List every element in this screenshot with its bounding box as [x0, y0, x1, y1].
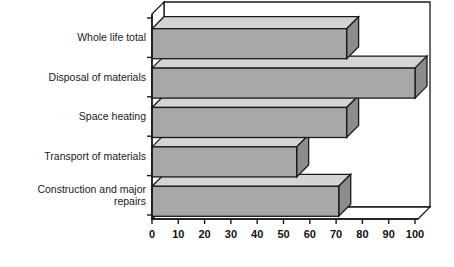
bar-front-face	[152, 147, 297, 177]
x-tick-label-3: 30	[225, 228, 237, 240]
x-tick-label-7: 70	[330, 228, 342, 240]
category-label-1: Disposal of materials	[8, 71, 146, 84]
x-tick-label-1: 10	[172, 228, 184, 240]
bar-front-face	[152, 68, 415, 98]
x-tick-label-8: 80	[356, 228, 368, 240]
category-label-3: Transport of materials	[8, 150, 146, 163]
category-label-0: Whole life total	[8, 31, 146, 44]
x-tick-label-0: 0	[149, 228, 155, 240]
category-label-4: Construction and major repairs	[8, 183, 146, 208]
bar-front-face	[152, 186, 339, 216]
bar-2	[152, 96, 359, 138]
x-tick-label-9: 90	[383, 228, 395, 240]
bar-4	[152, 174, 351, 216]
x-tick-label-2: 20	[198, 228, 210, 240]
x-tick-label-5: 50	[277, 228, 289, 240]
bar-0	[152, 17, 359, 59]
bar-3	[152, 135, 309, 177]
x-tick-label-6: 60	[304, 228, 316, 240]
bar-chart: 0102030405060708090100Whole life totalDi…	[0, 0, 454, 267]
x-tick-label-4: 40	[251, 228, 263, 240]
bar-front-face	[152, 108, 347, 138]
x-tick-label-10: 100	[406, 228, 424, 240]
bar-top-face	[152, 17, 359, 29]
category-label-2: Space heating	[8, 110, 146, 123]
bar-1	[152, 56, 427, 98]
bar-front-face	[152, 29, 347, 59]
